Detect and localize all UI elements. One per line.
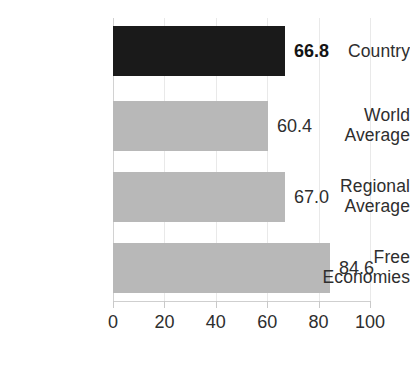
x-tick-label-0: 0 [108,311,118,333]
x-tick-20 [164,301,165,308]
bar-chart: Country World Average Regional Average F… [0,0,410,365]
x-tick-40 [216,301,217,308]
x-axis-line [113,301,371,302]
category-label-world-average: World Average [306,105,410,145]
x-tick-label-40: 40 [206,311,226,333]
x-tick-100 [370,301,371,308]
value-label-free-economies: 84.6 [339,258,374,278]
x-tick-label-20: 20 [154,311,174,333]
bar-free-economies[interactable] [113,243,330,293]
value-label-regional-average: 67.0 [294,187,329,207]
x-tick-60 [267,301,268,308]
category-label-line1: World [306,105,410,125]
x-tick-label-100: 100 [355,311,385,333]
bar-world-average[interactable] [113,101,268,151]
x-tick-0 [113,301,114,308]
bar-regional-average[interactable] [113,172,285,222]
x-tick-label-80: 80 [309,311,329,333]
category-label-line2: Average [306,125,410,145]
x-tick-label-60: 60 [257,311,277,333]
x-tick-80 [319,301,320,308]
bar-country[interactable] [113,26,285,76]
value-label-country: 66.8 [294,41,329,61]
value-label-world-average: 60.4 [277,116,312,136]
